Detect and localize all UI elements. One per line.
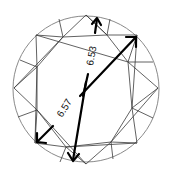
arrow-down-left-line <box>37 126 53 142</box>
diameter-657-line <box>73 82 86 160</box>
measurement-label-653: 6.53 <box>84 45 98 67</box>
diamond-facet-diagram: 6.53 6.57 <box>0 0 172 179</box>
measurement-label-657: 6.57 <box>54 96 74 119</box>
